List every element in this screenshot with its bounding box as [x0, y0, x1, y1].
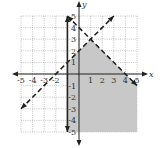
- y-axis-label: y: [81, 0, 87, 9]
- x-tick-label: -4: [29, 76, 37, 85]
- x-tick-label: 5: [134, 76, 139, 85]
- y-tick-label: -3: [68, 105, 76, 114]
- x-tick-label: 2: [100, 76, 105, 85]
- x-tick-label: -5: [17, 76, 25, 85]
- x-tick-label: -2: [52, 76, 60, 85]
- y-tick-label: 5: [71, 12, 76, 21]
- y-tick-label: -5: [68, 128, 76, 137]
- x-tick-label: 4: [123, 76, 128, 85]
- inequality-graph: -5-4-3-21234554321-1-2-3-4-5 x y: [0, 0, 165, 148]
- shaded-region: [67, 39, 137, 132]
- x-axis-label: x: [149, 70, 154, 79]
- x-tick-label: 1: [88, 76, 93, 85]
- y-tick-label: 2: [71, 47, 76, 56]
- x-tick-label: 3: [111, 76, 116, 85]
- y-tick-label: 3: [71, 35, 76, 44]
- y-tick-label: -1: [68, 82, 76, 91]
- y-tick-label: -2: [68, 93, 76, 102]
- y-tick-label: 4: [71, 24, 76, 33]
- y-tick-label: 1: [71, 58, 76, 67]
- y-tick-label: -4: [68, 116, 76, 125]
- x-tick-label: -3: [40, 76, 48, 85]
